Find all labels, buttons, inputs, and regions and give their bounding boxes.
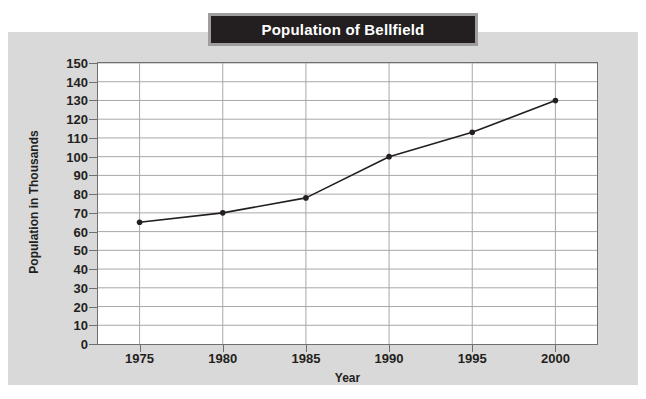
y-tick-label: 50 [54, 244, 88, 257]
x-tick-mark [472, 345, 473, 352]
y-tick-label: 150 [54, 57, 88, 70]
y-tick-label: 120 [54, 113, 88, 126]
x-axis-tick-labels: 197519801985199019952000 [97, 352, 598, 372]
y-tick-label: 80 [54, 188, 88, 201]
y-tick-label: 60 [54, 225, 88, 238]
x-tick-label: 1985 [276, 352, 336, 365]
y-tick-mark [89, 138, 97, 139]
population-data-markers [137, 98, 558, 225]
data-point [469, 130, 475, 136]
chart-title: Population of Bellfield [262, 21, 425, 38]
y-axis-tick-labels: 0102030405060708090100110120130140150 [52, 62, 88, 345]
y-tick-mark [89, 288, 97, 289]
y-tick-mark [89, 213, 97, 214]
x-tick-mark [223, 345, 224, 352]
y-tick-mark [89, 63, 97, 64]
y-tick-mark [89, 307, 97, 308]
data-point [553, 98, 559, 104]
x-tick-mark [555, 345, 556, 352]
x-tick-mark [140, 345, 141, 352]
y-tick-label: 100 [54, 150, 88, 163]
x-axis-title: Year [97, 371, 598, 385]
y-tick-label: 140 [54, 75, 88, 88]
x-tick-label: 1980 [193, 352, 253, 365]
x-tick-label: 1990 [359, 352, 419, 365]
y-tick-mark [89, 82, 97, 83]
y-tick-mark [89, 100, 97, 101]
horizontal-gridlines [98, 63, 597, 325]
y-tick-label: 70 [54, 206, 88, 219]
y-tick-label: 10 [54, 319, 88, 332]
y-tick-mark [89, 119, 97, 120]
y-tick-mark [89, 250, 97, 251]
y-tick-label: 110 [54, 131, 88, 144]
chart-canvas [98, 63, 597, 344]
y-tick-mark [89, 175, 97, 176]
y-tick-mark [89, 325, 97, 326]
x-tick-label: 1995 [442, 352, 502, 365]
data-point [303, 195, 309, 201]
y-tick-label: 0 [54, 338, 88, 351]
data-point [386, 154, 392, 160]
x-tick-label: 2000 [525, 352, 585, 365]
y-tick-mark [89, 232, 97, 233]
plot-area [97, 62, 598, 345]
chart-title-plaque: Population of Bellfield [208, 13, 478, 46]
y-tick-label: 40 [54, 263, 88, 276]
data-point [220, 210, 226, 216]
y-tick-label: 90 [54, 169, 88, 182]
chart-title-inner: Population of Bellfield [211, 16, 475, 43]
x-tick-mark [306, 345, 307, 352]
y-tick-label: 20 [54, 300, 88, 313]
x-tick-mark [389, 345, 390, 352]
x-tick-label: 1975 [110, 352, 170, 365]
chart-figure: Population of Bellfield 0102030405060708… [0, 0, 646, 399]
data-point [137, 219, 143, 225]
y-tick-mark [89, 269, 97, 270]
y-tick-mark [89, 344, 97, 345]
y-axis-tick-marks [89, 62, 97, 345]
x-axis-tick-marks [97, 345, 598, 353]
y-tick-mark [89, 157, 97, 158]
y-tick-label: 30 [54, 281, 88, 294]
y-axis-title: Population in Thousands [27, 61, 41, 344]
y-tick-label: 130 [54, 94, 88, 107]
vertical-gridlines [140, 63, 556, 344]
y-tick-mark [89, 194, 97, 195]
